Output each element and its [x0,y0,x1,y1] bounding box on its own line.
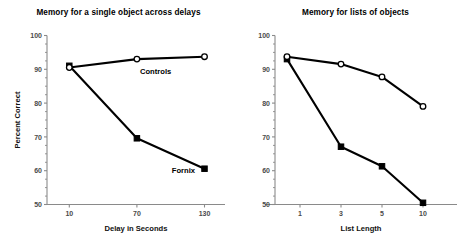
x-tick-label-left-2: 130 [199,210,211,217]
series-annotation-fornix-left: Fornix [172,166,196,175]
y-tick-label-left-4: 90 [34,66,42,73]
y-tick-label-right-4: 90 [262,66,270,73]
y-ticks-left [44,36,47,205]
series-markers-controls-right [284,54,426,109]
y-axis-title-left: Percent Correct [13,91,22,148]
series-markers-fornix-right [284,56,425,205]
y-tick-label-right-2: 70 [262,134,270,141]
figure-two-panel-line-charts: Memory for a single object across delays [0,0,474,246]
y-tick-label-left-0: 50 [34,201,42,208]
series-line-fornix-right [287,59,423,203]
y-tick-label-right-3: 80 [262,100,270,107]
x-tick-label-left-0: 10 [65,210,73,217]
series-line-fornix-left [69,66,204,169]
x-tick-label-right-3: 10 [419,210,427,217]
y-tick-label-right-0: 50 [262,201,270,208]
series-line-controls-right [287,57,423,107]
y-tick-label-left-1: 60 [34,167,42,174]
x-axis-title-right: List Length [341,224,382,233]
panel-memory-single-object: Memory for a single object across delays [0,0,237,246]
x-tick-label-right-2: 5 [380,210,384,217]
x-tick-label-right-0: 1 [298,210,302,217]
y-tick-label-left-3: 80 [34,100,42,107]
y-tick-label-right-1: 60 [262,167,270,174]
y-ticks-right [272,36,275,205]
series-annotation-controls-left: Controls [140,67,171,76]
x-tick-label-right-1: 3 [339,210,343,217]
x-tick-label-left-1: 70 [133,210,141,217]
y-tick-label-left-2: 70 [34,134,42,141]
x-axis-title-left: Delay in Seconds [105,224,168,233]
plot-area-left: 50 60 70 80 90 100 10 70 130 Delay in Se… [0,0,237,246]
y-tick-label-right-5: 100 [258,32,270,39]
plot-area-right: 50 60 70 80 90 100 1 3 5 10 List Length [237,0,474,246]
series-markers-fornix-left [67,63,208,171]
y-tick-label-left-5: 100 [30,32,42,39]
panel-memory-lists-of-objects: Memory for lists of objects [237,0,474,246]
